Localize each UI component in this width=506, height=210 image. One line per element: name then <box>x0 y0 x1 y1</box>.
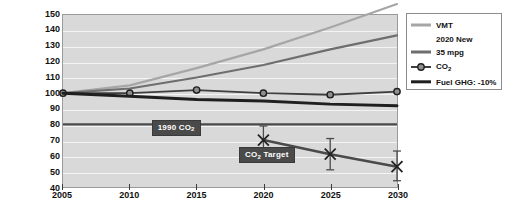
legend-label-vmt: VMT <box>436 21 453 30</box>
y-tick-label: 50 <box>32 168 60 177</box>
x-tick-label: 2005 <box>42 190 82 200</box>
legend-swatch-35mpg <box>411 47 431 57</box>
x-tick-mark <box>129 184 130 190</box>
plot-area: 1990 CO2CO2 Target <box>62 14 398 188</box>
x-tick-mark <box>196 184 197 190</box>
x-tick-label: 2030 <box>378 190 418 200</box>
x-tick-label: 2020 <box>244 190 284 200</box>
series-vmt <box>63 4 397 93</box>
cropped-title <box>0 0 506 8</box>
x-tick-label: 2025 <box>311 190 351 200</box>
series-fuelghg <box>63 93 397 106</box>
legend-swatch-vmt <box>411 20 431 30</box>
legend-label-co2: CO2 <box>436 62 451 72</box>
series-layer <box>63 15 397 187</box>
legend-swatch-co2 <box>411 62 431 72</box>
y-tick-label: 120 <box>32 57 60 66</box>
chart-root: Index: 2005=100% 15014013012011010090807… <box>0 0 506 210</box>
legend-item-35mpg[interactable]: 35 mpg <box>411 47 464 57</box>
x-tick-mark <box>62 184 63 190</box>
y-tick-label: 130 <box>32 41 60 50</box>
legend-item-vmt[interactable]: VMT <box>411 20 453 30</box>
y-axis-ticks: 150140130120110100908070605040 <box>30 14 60 188</box>
chart-legend: VMT 2020 New 35 mpg CO2 Fuel GHG: -10% <box>406 13 502 90</box>
legend-label-35mpg-line1: 2020 New <box>436 35 472 44</box>
y-tick-label: 100 <box>32 89 60 98</box>
y-tick-label: 60 <box>32 152 60 161</box>
x-tick-label: 2010 <box>109 190 149 200</box>
legend-swatch-fuelghg <box>411 77 431 87</box>
y-tick-label: 150 <box>32 10 60 19</box>
y-tick-label: 70 <box>32 136 60 145</box>
y-tick-label: 90 <box>32 104 60 113</box>
legend-marker-circle <box>411 62 431 72</box>
annotation-atarget: CO2 Target <box>239 147 294 163</box>
x-tick-mark <box>398 184 399 190</box>
x-tick-mark <box>331 184 332 190</box>
legend-label-35mpg-line2: 35 mpg <box>436 48 464 57</box>
y-tick-label: 140 <box>32 25 60 34</box>
annotation-a1990: 1990 CO2 <box>152 120 201 136</box>
legend-item-fuelghg[interactable]: Fuel GHG: -10% <box>411 77 496 87</box>
legend-label-fuelghg: Fuel GHG: -10% <box>436 78 496 87</box>
legend-item-co2[interactable]: CO2 <box>411 62 451 72</box>
y-tick-label: 110 <box>32 73 60 82</box>
x-tick-label: 2015 <box>176 190 216 200</box>
x-axis-ticks: 200520102015202020252030 <box>62 190 398 204</box>
series-mpg35 <box>63 35 397 93</box>
x-tick-mark <box>264 184 265 190</box>
y-tick-label: 80 <box>32 120 60 129</box>
